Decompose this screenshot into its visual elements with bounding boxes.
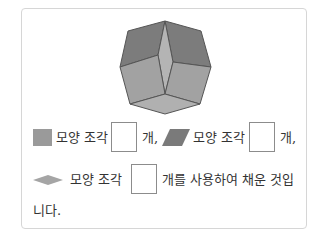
question-sentence-end: 니다. — [33, 203, 61, 219]
question-sentence: 개를 사용하여 채운 것입 — [162, 172, 294, 188]
answer-box-square[interactable] — [111, 122, 137, 152]
parallelogram-piece-label: 모양 조각 — [193, 130, 245, 146]
unit-label-2: 개, — [280, 130, 296, 146]
square-shape-icon — [33, 129, 52, 146]
rhombus-piece-label: 모양 조각 — [70, 172, 122, 188]
unit-label-1: 개, — [142, 130, 158, 146]
answer-box-rhombus[interactable] — [131, 164, 157, 194]
square-piece-label: 모양 조각 — [56, 130, 108, 146]
octagon-figure — [0, 0, 323, 120]
rhombus-shape-icon — [33, 175, 63, 185]
answer-box-parallelogram[interactable] — [249, 122, 275, 152]
parallelogram-shape-icon — [162, 129, 190, 146]
